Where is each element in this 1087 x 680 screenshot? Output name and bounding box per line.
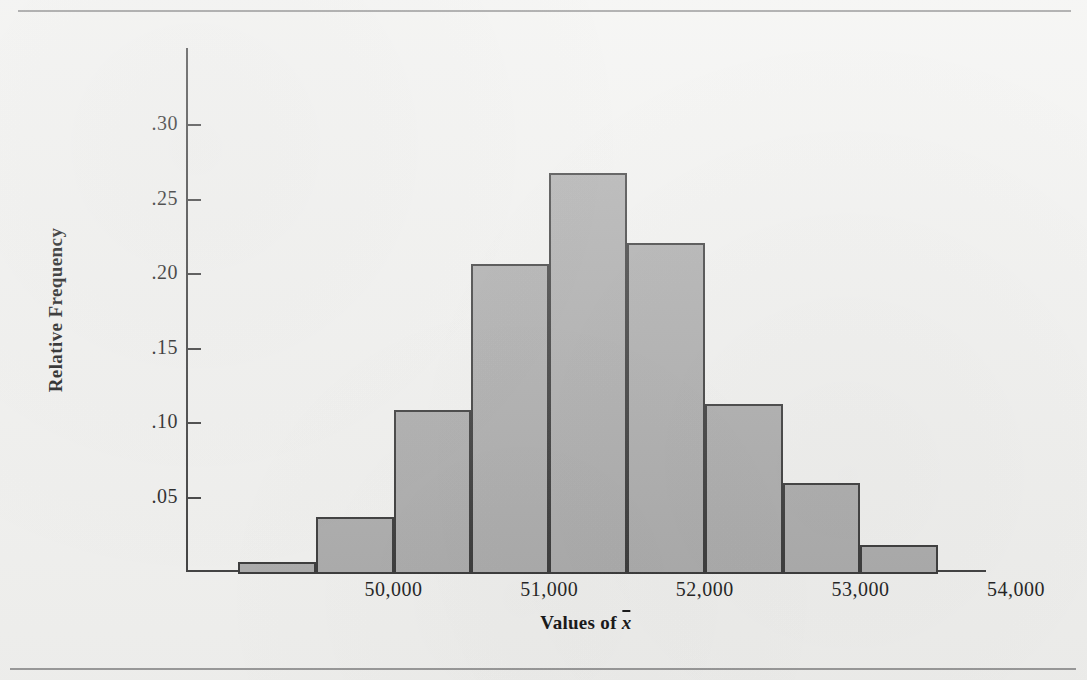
x-bar-symbol: x	[622, 612, 632, 634]
y-axis-tick	[188, 273, 201, 275]
histogram-bar	[860, 545, 938, 574]
y-axis-tick	[188, 422, 201, 424]
y-axis-tick-label: .25	[118, 187, 178, 210]
y-axis-tick	[188, 497, 201, 499]
figure-panel: .30.25.20.15.10.05 50,00051,00052,00053,…	[0, 0, 1087, 680]
histogram-bar	[394, 410, 472, 574]
histogram-bar	[316, 517, 394, 574]
x-axis-tick-label: 50,000	[324, 578, 464, 601]
y-axis-tick-label: .30	[118, 112, 178, 135]
histogram-bar	[705, 404, 783, 574]
histogram-plot: .30.25.20.15.10.05 50,00051,00052,00053,…	[0, 0, 1087, 680]
y-axis-tick-label: .05	[118, 485, 178, 508]
histogram-bar	[549, 173, 627, 574]
x-axis-tick-label: 53,000	[790, 578, 930, 601]
histogram-bar	[783, 483, 861, 574]
y-axis-tick	[188, 199, 201, 201]
x-axis-tick-label: 54,000	[946, 578, 1086, 601]
x-axis-tick-label: 51,000	[479, 578, 619, 601]
y-axis-tick-label: .20	[118, 261, 178, 284]
y-axis-line	[186, 48, 188, 572]
y-axis-title: Relative Frequency	[45, 228, 67, 393]
y-axis-tick	[188, 348, 201, 350]
histogram-bar	[627, 243, 705, 574]
x-axis-title-text: Values of	[540, 612, 621, 633]
x-axis-tick-label: 52,000	[635, 578, 775, 601]
y-axis-tick	[188, 124, 201, 126]
y-axis-tick-label: .15	[118, 336, 178, 359]
histogram-bar	[238, 562, 316, 574]
x-axis-title: Values of x	[540, 612, 631, 634]
y-axis-tick-label: .10	[118, 410, 178, 433]
histogram-bar	[471, 264, 549, 574]
